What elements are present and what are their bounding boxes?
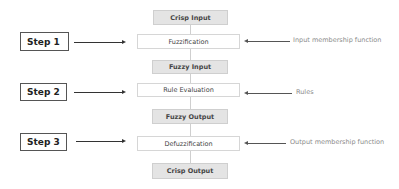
annotation-output-membership: Output membership function [290, 138, 384, 146]
crisp-output-box: Crisp Output [152, 163, 228, 179]
annotation-2-arrow-line [248, 93, 292, 94]
annotation-rules: Rules [296, 88, 314, 96]
step-2-arrow-line [74, 92, 122, 93]
step-1-arrowhead-icon [122, 40, 126, 44]
step-3-box: Step 3 [20, 133, 67, 151]
rule-evaluation-label: Rule Evaluation [163, 86, 214, 94]
defuzzification-box: Defuzzification [137, 136, 240, 151]
connector-2 [190, 49, 191, 60]
fuzzy-output-box: Fuzzy Output [152, 109, 228, 124]
fuzzy-input-box: Fuzzy Input [152, 60, 228, 74]
rule-evaluation-box: Rule Evaluation [137, 83, 240, 97]
fuzzy-output-label: Fuzzy Output [166, 113, 214, 121]
fuzzy-input-label: Fuzzy Input [169, 63, 211, 71]
crisp-input-label: Crisp Input [170, 14, 210, 22]
step-2-arrowhead-icon [122, 90, 126, 94]
step-3-arrow-line [76, 141, 122, 142]
step-1-box: Step 1 [20, 32, 69, 51]
annotation-3-arrow-line [248, 143, 286, 144]
connector-5 [190, 124, 191, 136]
defuzzification-label: Defuzzification [164, 140, 212, 148]
step-2-box: Step 2 [20, 83, 67, 101]
annotation-input-membership: Input membership function [293, 36, 381, 44]
connector-3 [190, 74, 191, 83]
crisp-input-box: Crisp Input [153, 10, 228, 25]
fuzzification-label: Fuzzification [168, 38, 208, 46]
step-3-label: Step 3 [27, 137, 60, 147]
step-1-label: Step 1 [27, 37, 60, 47]
connector-1 [190, 25, 191, 34]
fuzzification-box: Fuzzification [137, 34, 240, 49]
step-2-label: Step 2 [27, 87, 60, 97]
step-1-arrow-line [74, 42, 122, 43]
step-3-arrowhead-icon [122, 139, 126, 143]
connector-4 [190, 97, 191, 109]
annotation-1-arrow-line [248, 41, 290, 42]
crisp-output-label: Crisp Output [167, 167, 214, 175]
connector-6 [190, 151, 191, 163]
